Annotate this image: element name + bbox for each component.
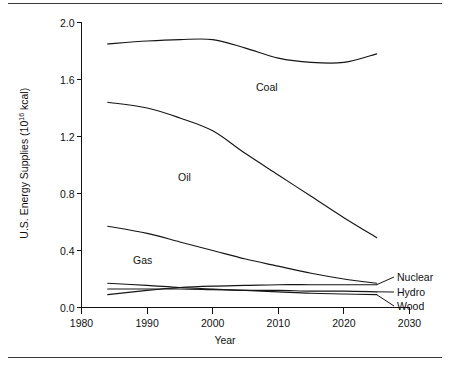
y-axis-tick-label: 0.0 — [45, 303, 75, 314]
series-label-oil: Oil — [178, 172, 191, 183]
series-line-coal — [108, 39, 377, 63]
leader-line-nuclear — [377, 277, 394, 285]
series-line-nuclear — [108, 285, 377, 295]
series-label-wood: Wood — [397, 301, 424, 312]
series-label-hydro: Hydro — [397, 287, 425, 298]
x-axis-tick-label: 1990 — [122, 318, 172, 329]
y-axis-title-main: U.S. Energy Supplies (10 — [18, 121, 30, 239]
figure-container: 0.00.40.81.21.62.0 198019902000201020202… — [0, 0, 450, 371]
y-axis-title-exponent: 16 — [18, 113, 25, 121]
series-label-coal: Coal — [256, 82, 278, 93]
series-line-oil — [108, 102, 377, 237]
axes-group — [77, 23, 410, 314]
y-axis-tick-label: 0.4 — [45, 246, 75, 257]
x-axis-title: Year — [0, 334, 450, 346]
y-axis-tick-label: 0.8 — [45, 189, 75, 200]
x-axis-tick-label: 2030 — [385, 318, 435, 329]
line-chart-plot — [0, 0, 450, 371]
y-axis-tick-label: 1.2 — [45, 132, 75, 143]
y-axis-title-tail: kcal) — [18, 88, 30, 113]
x-axis-tick-label: 2010 — [253, 318, 303, 329]
y-axis-tick-label: 2.0 — [45, 18, 75, 29]
series-label-gas: Gas — [133, 255, 152, 266]
leader-lines-group — [377, 277, 394, 306]
x-axis-tick-label: 2000 — [188, 318, 238, 329]
x-axis-tick-label: 2020 — [319, 318, 369, 329]
y-axis-title: U.S. Energy Supplies (1016 kcal) — [18, 53, 31, 273]
series-label-nuclear: Nuclear — [397, 272, 433, 283]
x-axis-tick-label: 1980 — [57, 318, 107, 329]
leader-line-wood — [377, 295, 394, 306]
y-axis-tick-label: 1.6 — [45, 75, 75, 86]
